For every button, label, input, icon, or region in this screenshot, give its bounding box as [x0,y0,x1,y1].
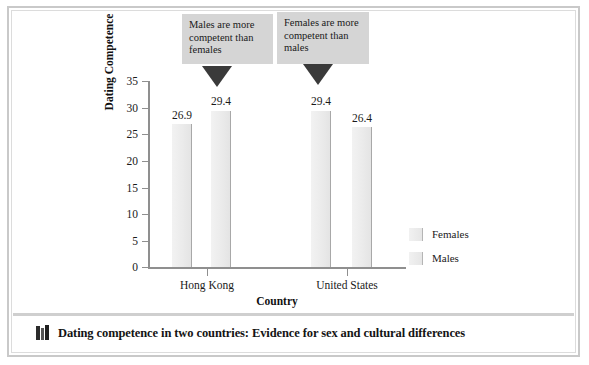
y-axis-tick-label: 15 [104,182,138,194]
x-axis-line [148,267,406,269]
y-axis-tick [142,81,148,82]
figure-marker-icon [36,325,49,341]
callout-arrow-down-icon-left [202,66,232,87]
bar-hong-kong-females [172,124,192,267]
caption-divider [13,313,574,316]
x-axis-tick [207,269,208,276]
figure-container: Males are more competent than females Fe… [0,0,589,365]
y-axis-tick-label: 0 [104,261,138,273]
bar-united-states-males [352,127,372,267]
y-axis-tick [142,161,148,162]
y-axis-tick [142,134,148,135]
y-axis-line [148,81,150,268]
y-axis-tick-label: 10 [104,208,138,220]
y-axis-title: Dating Competence [103,2,115,122]
x-axis-title: Country [148,295,406,307]
legend-swatch-males [409,252,423,265]
y-axis-tick-label: 25 [104,128,138,140]
y-axis-tick [142,108,148,109]
figure-caption-bar: Dating competence in two countries: Evid… [13,318,574,348]
y-axis-tick-label: 20 [104,155,138,167]
annotation-callout-females: Females are more competent than males [277,12,369,64]
legend-item-females: Females [409,222,469,246]
bar-hong-kong-males [211,111,231,267]
y-axis-tick [142,214,148,215]
bar-value-label: 26.4 [337,112,387,124]
x-axis-tick-label-hong-kong: Hong Kong [157,279,257,291]
callout-arrow-down-icon-right [303,64,333,85]
chart-legend: Females Males [409,222,469,270]
figure-caption-text: Dating competence in two countries: Evid… [58,326,465,341]
chart-plot-area: Males are more competent than females Fe… [0,0,589,313]
annotation-callout-males: Males are more competent than females [182,14,273,64]
bar-value-label: 29.4 [196,95,246,107]
y-axis-tick [142,267,148,268]
bar-value-label: 26.9 [157,109,207,121]
legend-item-males: Males [409,246,469,270]
legend-label-females: Females [432,228,469,240]
y-axis-tick-label: 5 [104,235,138,247]
legend-label-males: Males [432,252,459,264]
y-axis-tick [142,188,148,189]
x-axis-tick-label-united-states: United States [297,279,397,291]
x-axis-tick [347,269,348,276]
bar-united-states-females [311,111,331,267]
legend-swatch-females [409,228,423,241]
y-axis-tick [142,241,148,242]
bar-value-label: 29.4 [296,95,346,107]
